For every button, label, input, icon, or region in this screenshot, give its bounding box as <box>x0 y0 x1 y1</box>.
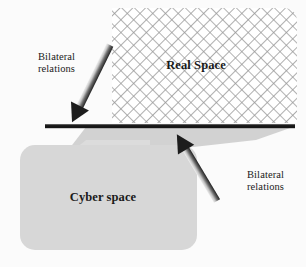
arrow-left-head <box>63 102 89 127</box>
bilateral-relations-label-left: Bilateral relations <box>38 51 100 75</box>
diagram-canvas: Bilateral relations Bilateral relations … <box>0 0 306 267</box>
bilateral-relations-label-right: Bilateral relations <box>247 169 306 193</box>
boundary-bar-highlight <box>45 124 295 125</box>
cyber-space-label: Cyber space <box>52 190 154 204</box>
diagram-vector-layer <box>0 0 306 267</box>
boundary-bar <box>45 124 295 128</box>
real-space-label: Real Space <box>150 58 242 72</box>
